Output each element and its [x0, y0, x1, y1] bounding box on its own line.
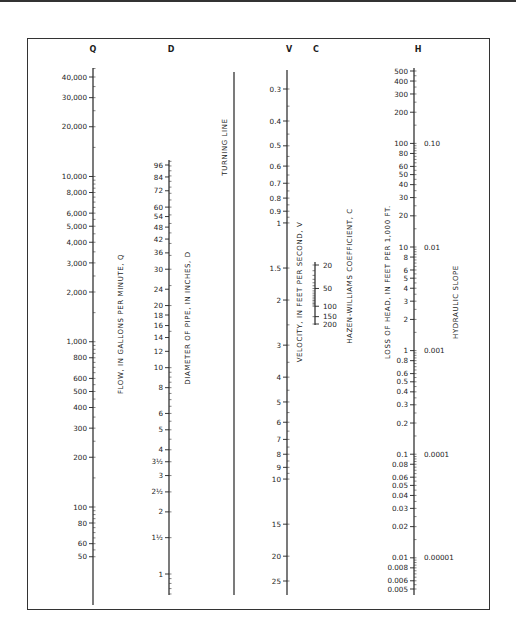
tick-label: 1: [276, 219, 281, 228]
tick-label: 2,000: [66, 288, 87, 297]
axis-diameter-d: 9684726054484236302420181614121086543½32…: [151, 160, 171, 595]
tick-label: 10: [154, 363, 164, 372]
tick-label: 0.2: [397, 419, 408, 428]
axis-velocity-v: 0.30.40.50.60.70.80.911.5234567891015202…: [270, 70, 290, 595]
axis-hazen-williams-c: 2050100150200: [313, 261, 338, 329]
slope-label: 0.0001: [424, 450, 449, 459]
tick-label: 2½: [151, 487, 163, 496]
tick-label: 3: [158, 471, 163, 480]
tick-label: 6,000: [66, 209, 87, 218]
tick-label: 40,000: [62, 73, 88, 82]
tick-label: 80: [399, 149, 409, 158]
tick-label: 0.6: [270, 162, 282, 171]
tick-label: 800: [73, 353, 87, 362]
tick-label: 20: [323, 261, 333, 270]
tick-label: 0.3: [397, 400, 408, 409]
tick-label: 1,000: [66, 337, 87, 346]
nomograph: Q D V C H 40,00030,00020,00010,0008,0006…: [0, 0, 516, 638]
tick-label: 9: [276, 463, 281, 472]
tick-label: 6: [158, 409, 163, 418]
tick-label: 0.8: [270, 194, 282, 203]
tick-label: 3,000: [66, 259, 87, 268]
tick-label: 5: [276, 398, 281, 407]
title-diameter: DIAMETER OF PIPE, IN INCHES, D: [184, 251, 192, 384]
tick-label: 36: [154, 248, 164, 257]
tick-label: 100: [323, 302, 337, 311]
tick-label: 72: [154, 186, 163, 195]
tick-label: 1.5: [270, 264, 281, 273]
tick-label: 0.5: [270, 141, 281, 150]
slope-label: 0.001: [424, 346, 445, 355]
tick-label: 5: [403, 274, 408, 283]
tick-label: 60: [78, 539, 88, 548]
title-hazen-williams: HAZEN-WILLIAMS COEFFICIENT, C: [346, 208, 354, 344]
tick-label: 16: [154, 321, 164, 330]
tick-label: 60: [154, 203, 164, 212]
tick-label: 4,000: [66, 238, 87, 247]
tick-label: 200: [323, 320, 337, 329]
tick-label: 0.01: [392, 553, 408, 562]
tick-label: 0.08: [392, 460, 408, 469]
tick-label: 300: [73, 424, 87, 433]
tick-label: 0.5: [397, 377, 408, 386]
tick-label: 400: [73, 403, 87, 412]
tick-label: 200: [394, 108, 408, 117]
tick-label: 0.008: [387, 563, 408, 572]
tick-label: 12: [154, 347, 163, 356]
tick-label: 4: [403, 284, 408, 293]
tick-label: 3: [276, 341, 281, 350]
tick-label: 20: [272, 552, 282, 561]
tick-label: 20,000: [62, 122, 88, 131]
tick-label: 25: [272, 577, 281, 586]
tick-label: 10: [272, 475, 282, 484]
tick-label: 50: [78, 552, 88, 561]
tick-label: 40: [399, 180, 409, 189]
header-v: V: [286, 45, 293, 54]
tick-label: 0.005: [387, 585, 408, 594]
tick-label: 15: [272, 520, 281, 529]
tick-label: 5: [158, 425, 163, 434]
tick-label: 24: [154, 285, 164, 294]
tick-label: 400: [394, 77, 408, 86]
tick-label: 500: [73, 387, 87, 396]
tick-label: 4: [276, 373, 281, 382]
tick-label: 0.04: [392, 491, 408, 500]
tick-label: 0.3: [270, 85, 281, 94]
tick-label: 3½: [151, 457, 163, 466]
tick-label: 14: [154, 333, 164, 342]
tick-label: 5,000: [66, 222, 87, 231]
tick-label: 18: [154, 311, 164, 320]
slope-label: 0.10: [424, 139, 440, 148]
header-c: C: [313, 45, 319, 54]
tick-label: 42: [154, 235, 163, 244]
slope-label: 0.01: [424, 243, 440, 252]
tick-label: 200: [73, 453, 87, 462]
tick-label: 84: [154, 173, 164, 182]
tick-label: 1½: [151, 533, 163, 542]
tick-label: 500: [394, 67, 408, 76]
tick-label: 10,000: [62, 172, 88, 181]
tick-label: 7: [276, 435, 281, 444]
tick-label: 54: [154, 212, 164, 221]
tick-label: 100: [73, 503, 87, 512]
tick-label: 0.7: [270, 179, 281, 188]
tick-label: 10: [399, 243, 409, 252]
tick-label: 600: [73, 374, 87, 383]
tick-label: 20: [154, 301, 164, 310]
tick-label: 48: [154, 223, 164, 232]
tick-label: 3: [403, 297, 408, 306]
tick-label: 0.1: [397, 450, 408, 459]
title-flow: FLOW, IN GALLONS PER MINUTE, Q: [117, 254, 125, 394]
title-turning-line: TURNING LINE: [221, 118, 229, 176]
header-d: D: [168, 45, 175, 54]
header-q: Q: [90, 45, 97, 54]
tick-label: 30,000: [62, 93, 88, 102]
tick-label: 300: [394, 90, 408, 99]
tick-label: 0.03: [392, 504, 408, 513]
title-head-loss: LOSS OF HEAD, IN FEET PER 1,000 FT.: [384, 205, 392, 359]
tick-label: 96: [154, 161, 164, 170]
tick-label: 20: [399, 211, 409, 220]
tick-label: 2: [158, 507, 163, 516]
tick-label: 0.4: [397, 387, 409, 396]
tick-label: 50: [323, 284, 333, 293]
